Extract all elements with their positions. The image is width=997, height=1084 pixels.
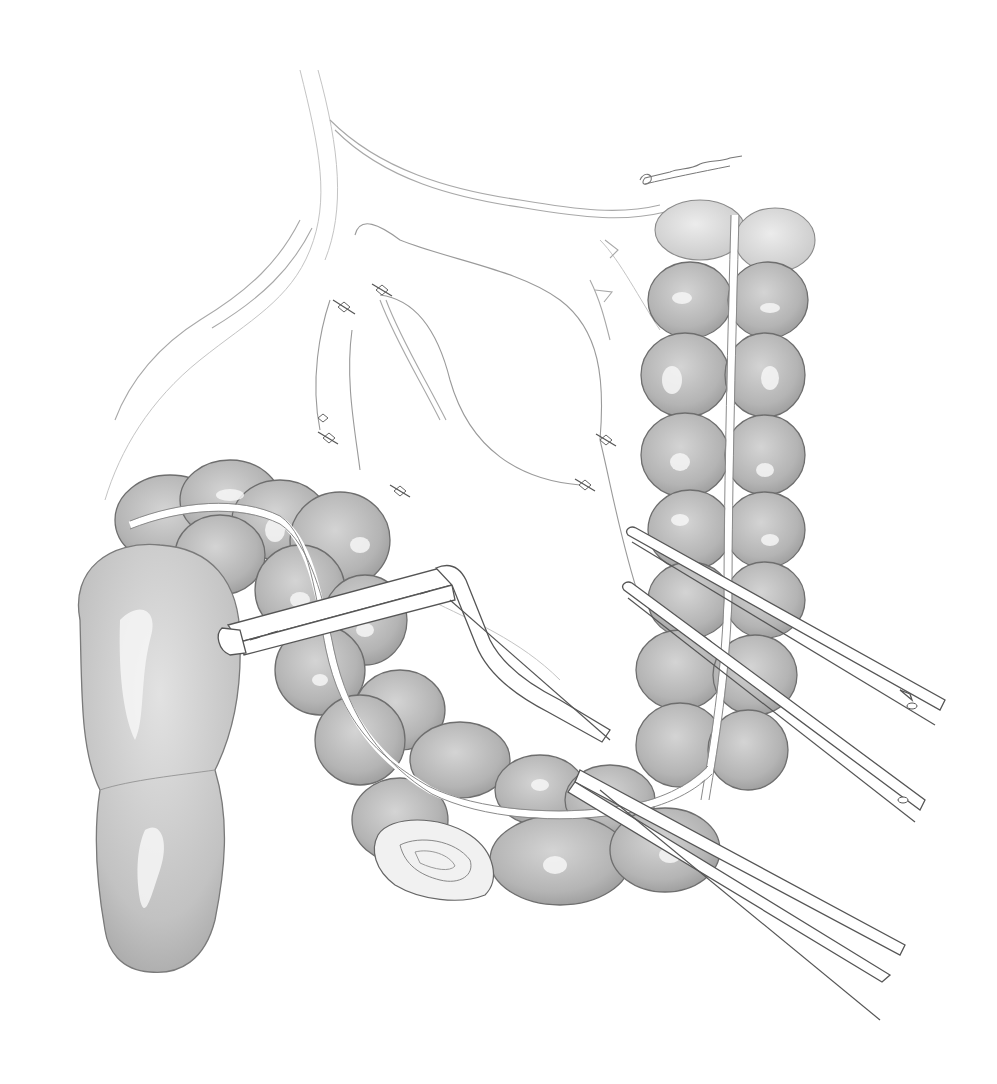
suture-ties <box>318 284 616 497</box>
illustration-canvas <box>0 0 997 1084</box>
suture-tie <box>318 414 328 422</box>
suture-tie <box>333 300 355 314</box>
surgical-illustration <box>0 0 997 1084</box>
cecum <box>78 544 240 972</box>
suture-tie <box>596 434 616 446</box>
suture-tie <box>390 485 410 497</box>
suture-tie <box>318 432 338 444</box>
artist-signature <box>630 150 760 190</box>
suture-tie <box>372 284 392 296</box>
bowel-stump <box>374 820 493 900</box>
